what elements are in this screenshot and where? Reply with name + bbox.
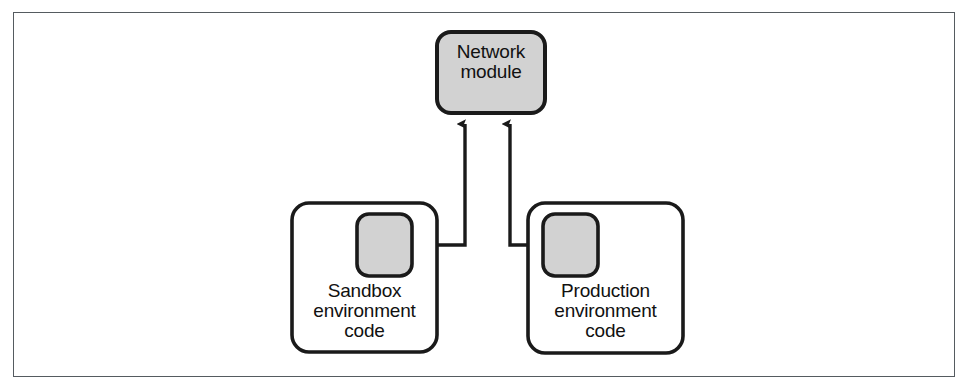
node-production-module-slot [543, 214, 598, 276]
node-label-sandbox-environment-code: Sandbox environment code [292, 281, 437, 340]
node-sandbox-module-slot [357, 214, 412, 276]
node-label-production-environment-code: Production environment code [528, 281, 683, 340]
figure-container: Network module Sandbox environment code … [0, 0, 965, 389]
node-label-network-module: Network module [437, 42, 545, 82]
